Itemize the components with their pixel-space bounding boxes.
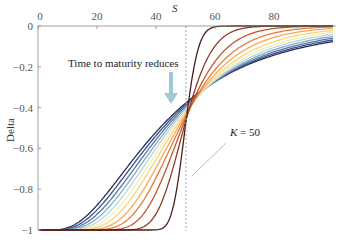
y-tick-label: −0.4 [13, 102, 33, 114]
x-tick-label: 40 [151, 10, 163, 22]
y-tick-label: −0.2 [13, 61, 33, 73]
x-tick-label: 80 [269, 10, 281, 22]
strike-leader-line [192, 143, 226, 176]
y-axis-title: Delta [4, 118, 16, 142]
x-tick-label: 0 [37, 10, 43, 22]
strike-value: = 50 [237, 126, 260, 138]
put-delta-chart: 020406080 0−0.2−0.4−0.6−0.8−1 S Delta Ti… [0, 0, 340, 240]
maturity-annotation: Time to maturity reduces [68, 57, 179, 69]
y-tick-label: −1 [21, 224, 33, 236]
strike-annotation: K = 50 [229, 126, 261, 138]
y-tick-label: −0.8 [13, 183, 33, 195]
y-tick-label: −0.6 [13, 142, 33, 154]
y-tick-label: 0 [28, 20, 34, 32]
x-tick-label: 20 [92, 10, 104, 22]
x-axis-title: S [172, 2, 178, 14]
x-tick-label: 60 [210, 10, 222, 22]
maturity-arrow [164, 72, 178, 104]
y-ticks: 0−0.2−0.4−0.6−0.8−1 [13, 20, 41, 236]
